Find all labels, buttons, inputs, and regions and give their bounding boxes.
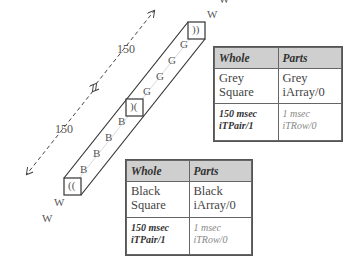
black-letter: B (80, 163, 87, 175)
parts-type: iTRow/0 (194, 234, 248, 246)
black-letter: B (118, 115, 125, 127)
distance-label-upper: 150 (117, 42, 135, 57)
grey-letter: G (180, 38, 188, 50)
w-label-top-inner: W (207, 8, 217, 20)
tube-end-top-label: )) (192, 23, 199, 35)
whole-type: iTPair/1 (219, 120, 274, 132)
w-label-top-outer: W (219, 0, 229, 5)
whole-cell: Grey Square (215, 69, 279, 104)
w-label-bottom-inner: W (54, 196, 64, 208)
tube-middle-label: )( (130, 100, 137, 112)
whole-color: Black (131, 184, 185, 198)
parts-color: Black (194, 184, 248, 198)
grey-square-table: Whole Parts Grey Square Grey iArray/0 15… (213, 46, 343, 142)
whole-timing-cell: 150 msec iTPair/1 (215, 104, 279, 141)
header-parts: Parts (189, 161, 252, 182)
header-whole: Whole (127, 161, 190, 182)
parts-timing-cell: 1 msec iTRow/0 (189, 218, 252, 255)
grey-letter: G (143, 85, 151, 97)
parts-duration: 1 msec (194, 222, 248, 234)
grey-letter: G (156, 70, 164, 82)
w-label-bottom-outer: W (42, 212, 52, 224)
parts-color: Grey (283, 71, 338, 85)
whole-timing-cell: 150 msec iTPair/1 (127, 218, 190, 255)
parts-cell: Grey iArray/0 (278, 69, 342, 104)
parts-timing-cell: 1 msec iTRow/0 (278, 104, 342, 141)
whole-color: Grey (219, 71, 274, 85)
whole-duration: 150 msec (219, 108, 274, 120)
parts-cell: Black iArray/0 (189, 182, 252, 218)
grey-letter: G (168, 54, 176, 66)
whole-duration: 150 msec (131, 222, 185, 234)
tube-end-bottom-label: (( (68, 179, 75, 191)
header-parts: Parts (278, 48, 342, 69)
parts-array: iArray/0 (283, 85, 338, 99)
black-letter: B (105, 131, 112, 143)
distance-label-lower: 150 (55, 122, 73, 137)
whole-type: iTPair/1 (131, 234, 185, 246)
whole-shape: Square (219, 85, 274, 99)
parts-type: iTRow/0 (283, 120, 338, 132)
parts-duration: 1 msec (283, 108, 338, 120)
parts-array: iArray/0 (194, 198, 248, 212)
black-square-table: Whole Parts Black Square Black iArray/0 … (125, 159, 253, 256)
black-letter: B (93, 147, 100, 159)
whole-shape: Square (131, 198, 185, 212)
whole-cell: Black Square (127, 182, 190, 218)
header-whole: Whole (215, 48, 279, 69)
